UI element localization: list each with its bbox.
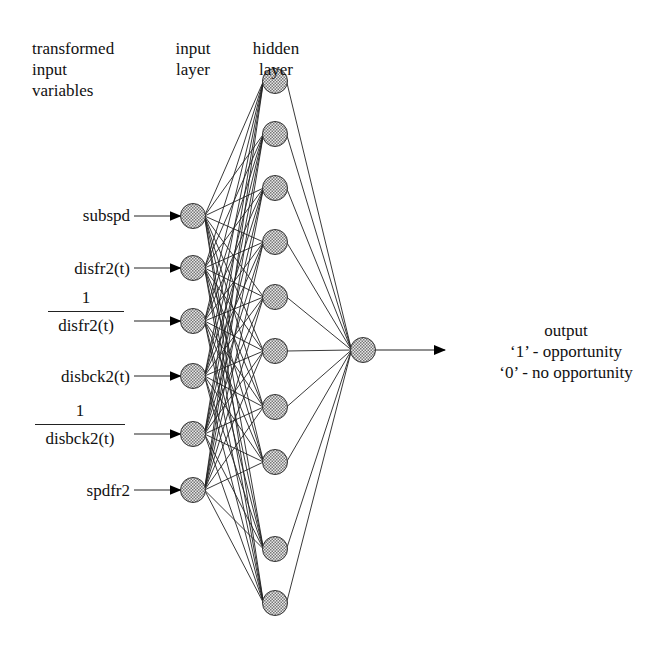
input-label-spdfr2: spdfr2	[40, 480, 130, 501]
input-node	[181, 422, 206, 447]
output-class-1: ‘1’ - opportunity	[476, 341, 656, 362]
header-line: layer	[246, 59, 306, 80]
header-line: variables	[32, 80, 114, 101]
fraction-denominator: disfr2(t)	[48, 311, 124, 336]
hidden-node	[263, 230, 288, 255]
hidden-layer-header: hidden layer	[246, 38, 306, 80]
input-node	[181, 256, 206, 281]
input-label-disfr2: disfr2(t)	[40, 258, 130, 279]
hidden-node	[263, 176, 288, 201]
output-title: output	[476, 320, 656, 341]
hidden-node	[263, 537, 288, 562]
hidden-node	[263, 339, 288, 364]
input-node	[181, 204, 206, 229]
hidden-node	[263, 591, 288, 616]
header-line: transformed	[32, 38, 114, 59]
input-layer-header: input layer	[168, 38, 218, 80]
hidden-node	[263, 395, 288, 420]
hidden-node	[263, 285, 288, 310]
header-line: input	[32, 59, 114, 80]
hidden-node	[263, 122, 288, 147]
input-node	[181, 309, 206, 334]
hidden-node	[263, 450, 288, 475]
header-line: layer	[168, 59, 218, 80]
input-label-inv-disfr2: 1 disfr2(t)	[48, 287, 124, 336]
fraction-denominator: disbck2(t)	[35, 424, 125, 449]
input-node	[181, 364, 206, 389]
input-label-disbck2: disbck2(t)	[40, 366, 130, 387]
transformed-input-header: transformed input variables	[32, 38, 114, 101]
output-class-0: ‘0’ - no opportunity	[476, 362, 656, 383]
fraction-numerator: 1	[35, 400, 125, 421]
output-label: output ‘1’ - opportunity ‘0’ - no opport…	[476, 320, 656, 383]
input-label-inv-disbck2: 1 disbck2(t)	[35, 400, 125, 449]
output-node	[351, 338, 376, 363]
fraction-numerator: 1	[48, 287, 124, 308]
header-line: hidden	[246, 38, 306, 59]
input-label-subspd: subspd	[40, 205, 130, 226]
input-node	[181, 478, 206, 503]
header-line: input	[168, 38, 218, 59]
